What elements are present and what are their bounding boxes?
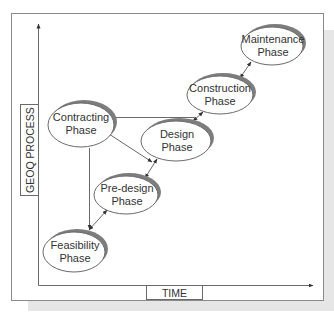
geoq-process-diagram: GEOQ PROCESS TIME Contracting Phase Feas… [0,0,334,318]
node-feasibility-label-2: Phase [59,252,90,264]
x-axis-label-box: TIME [147,286,203,300]
node-construction-label-2: Phase [204,95,235,107]
x-axis-label: TIME [162,287,187,299]
node-contracting-label-1: Contracting [53,111,109,123]
node-maintenance-label-2: Phase [257,46,288,58]
frame-shadow-bottom [28,301,334,311]
node-predesign-label-1: Pre-design [100,182,153,194]
frame-shadow-right [324,30,334,311]
node-design-label-1: Design [160,128,194,140]
node-contracting-label-2: Phase [65,124,96,136]
y-axis-label-box: GEOQ PROCESS [21,105,39,196]
y-axis-label: GEOQ PROCESS [24,107,36,193]
node-maintenance-label-1: Maintenance [242,33,305,45]
node-predesign-label-2: Phase [111,195,142,207]
node-design-label-2: Phase [161,141,192,153]
node-construction-label-1: Construction [189,82,251,94]
node-feasibility-label-1: Feasibility [51,239,100,251]
